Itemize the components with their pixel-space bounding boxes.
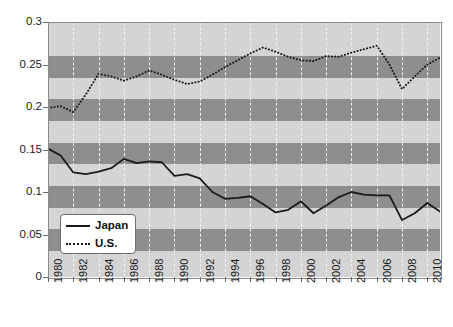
legend-entry-japan: Japan xyxy=(61,217,135,235)
x-axis-tick-label: 1986 xyxy=(129,259,140,283)
y-axis-tick-mark xyxy=(43,192,48,193)
series-line-us xyxy=(48,46,440,112)
x-axis-tick-mark xyxy=(200,277,201,282)
x-axis-tick-mark xyxy=(402,277,403,282)
x-axis-tick-mark xyxy=(427,277,428,282)
x-axis-tick-label: 1996 xyxy=(255,259,266,283)
y-axis-tick-label: 0.2 xyxy=(0,101,42,113)
y-axis-tick-label: 0.05 xyxy=(0,229,42,241)
x-axis-tick-label: 1992 xyxy=(205,259,216,283)
y-axis-tick-label: 0 xyxy=(0,271,42,283)
x-axis-tick-label: 2004 xyxy=(356,259,367,283)
x-axis-tick-mark xyxy=(174,277,175,282)
y-axis-tick-label: 0.15 xyxy=(0,144,42,156)
y-axis-tick-mark xyxy=(43,65,48,66)
legend-swatch-solid-line xyxy=(66,221,90,231)
x-axis-tick-mark xyxy=(301,277,302,282)
y-axis-tick-mark xyxy=(43,107,48,108)
x-axis-tick-label: 2006 xyxy=(382,259,393,283)
x-axis-tick-label: 2008 xyxy=(407,259,418,283)
legend-label-us: U.S. xyxy=(95,238,117,250)
x-axis-tick-label: 1998 xyxy=(281,259,292,283)
x-axis-tick-label: 2000 xyxy=(306,259,317,283)
y-axis-tick-label: 0.25 xyxy=(0,59,42,71)
x-axis-tick-label: 1990 xyxy=(179,259,190,283)
x-axis-tick-mark xyxy=(326,277,327,282)
legend-swatch-dotted-line xyxy=(66,239,90,249)
y-axis-tick-mark xyxy=(43,150,48,151)
x-axis-tick-label: 1982 xyxy=(78,259,89,283)
x-axis-tick-mark xyxy=(351,277,352,282)
x-axis-tick-mark xyxy=(377,277,378,282)
x-axis-tick-label: 1994 xyxy=(230,259,241,283)
x-axis-tick-mark xyxy=(225,277,226,282)
x-axis-tick-mark xyxy=(250,277,251,282)
x-axis-tick-mark xyxy=(48,277,49,282)
x-axis-tick-label: 1988 xyxy=(154,259,165,283)
x-axis-tick-mark xyxy=(73,277,74,282)
line-chart: 00.050.10.150.20.250.3 19801982198419861… xyxy=(0,0,453,327)
x-axis-tick-mark xyxy=(124,277,125,282)
x-axis-tick-label: 1980 xyxy=(53,259,64,283)
x-axis-tick-label: 1984 xyxy=(104,259,115,283)
y-axis-tick-mark xyxy=(43,235,48,236)
x-axis-tick-label: 2002 xyxy=(331,259,342,283)
series-line-japan xyxy=(48,149,440,220)
x-axis-tick-mark xyxy=(276,277,277,282)
y-axis-tick-label: 0.1 xyxy=(0,186,42,198)
chart-legend: Japan U.S. xyxy=(60,214,136,254)
x-axis-tick-mark xyxy=(99,277,100,282)
x-axis-tick-mark xyxy=(149,277,150,282)
legend-label-japan: Japan xyxy=(95,220,128,232)
y-axis-tick-label: 0.3 xyxy=(0,16,42,28)
x-axis-tick-label: 2010 xyxy=(432,259,443,283)
y-axis-tick-mark xyxy=(43,22,48,23)
legend-entry-us: U.S. xyxy=(61,235,135,253)
